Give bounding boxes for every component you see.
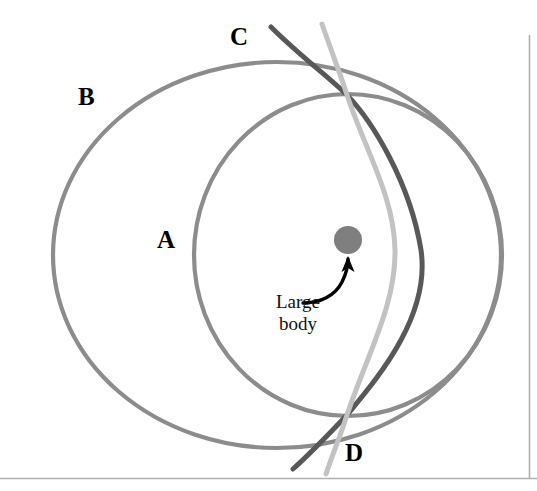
large-body-disc: [334, 226, 362, 254]
large-body-caption-line-2: body: [243, 313, 353, 335]
orbit-curve-A: [194, 94, 502, 416]
orbit-diagram-figure: A B C D Large body: [0, 0, 537, 491]
orbit-label-b: B: [78, 84, 95, 109]
orbit-label-c: C: [230, 24, 248, 49]
large-body-caption-line-1: Large: [243, 291, 353, 313]
orbit-label-a: A: [157, 227, 175, 252]
orbit-label-d: D: [345, 440, 363, 465]
orbit-diagram-canvas: [0, 0, 537, 491]
large-body-caption: Large body: [243, 291, 353, 336]
